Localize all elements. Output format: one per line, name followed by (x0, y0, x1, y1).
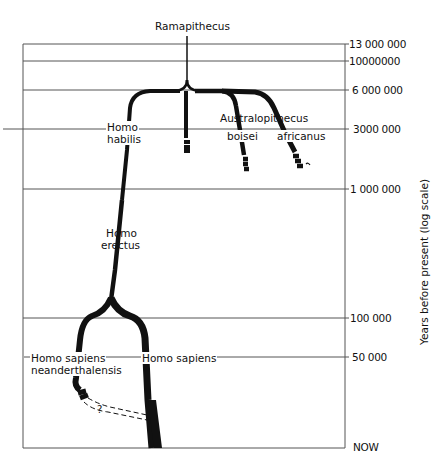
y-axis-label: Years before present (log scale) (418, 179, 430, 345)
label-neanderthal-1: Homo sapiens (30, 352, 106, 364)
label-africanus: africanus (276, 130, 326, 142)
phylogeny-diagram (0, 0, 435, 471)
label-australopithecus: Australopithecus (219, 112, 309, 124)
tick-13m: 13 000 000 (349, 38, 406, 50)
tick-6m: 6 000 000 (352, 84, 403, 96)
label-neanderthal-2: neanderthalensis (30, 364, 123, 376)
tick-now: NOW (353, 441, 379, 453)
label-homo-habilis-2: habilis (106, 133, 142, 145)
label-homo-erectus-2: erectus (100, 239, 141, 251)
tick-10m: 10000000 (349, 55, 400, 67)
time-grid (3, 44, 349, 448)
homo-habilis-lineage (122, 91, 180, 200)
label-homo-sapiens: Homo sapiens (141, 352, 217, 364)
neanderthal-lineage (76, 298, 112, 390)
tick-1m: 1 000 000 (350, 183, 401, 195)
label-ramapithecus: Ramapithecus (154, 20, 231, 32)
label-homo-erectus-1: Homo (105, 227, 138, 239)
tick-100k: 100 000 (350, 312, 391, 324)
label-uncertain: ? (96, 404, 103, 416)
label-homo-habilis-1: Homo (106, 121, 139, 133)
tick-3m: 3000 000 (353, 123, 401, 135)
tick-50k: 50 000 (352, 351, 387, 363)
label-boisei: boisei (226, 130, 259, 142)
